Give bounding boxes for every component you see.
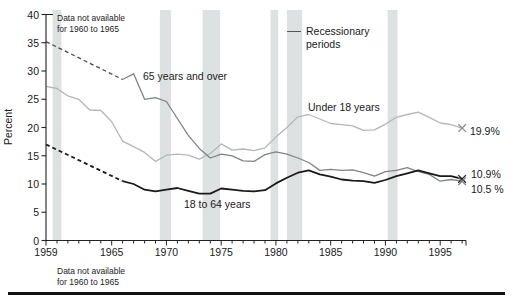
legend-label: Recessionary periods [306,25,370,51]
note-top-line-1: Data not available [57,13,125,24]
y-axis-title: Percent [2,97,16,157]
note-bottom-line-1: Data not available [57,266,125,277]
y-tick-label: 0 [17,235,39,247]
x-tick-label: 1990 [365,246,405,258]
recession-band [388,10,398,241]
series-line [46,86,462,161]
y-tick-label: 5 [17,206,39,218]
end-value-18-to-64: 10.9% [471,168,501,180]
y-tick-label: 40 [17,9,39,21]
poverty-rate-by-age-chart: 0510152025303540195919651970197519801985… [0,0,513,304]
chart-canvas [0,0,513,304]
x-tick-label: 1980 [256,246,296,258]
x-tick-label: 1970 [146,246,186,258]
recession-band [160,10,171,241]
note-bottom-line-2: for 1960 to 1965 [57,277,125,288]
x-tick-label: 1959 [26,246,66,258]
y-tick-label: 30 [17,65,39,77]
recession-band [53,10,62,241]
end-value-under-18: 19.9% [470,125,500,137]
series-label-65-and-over: 65 years and over [143,70,227,82]
y-tick-label: 15 [17,150,39,162]
y-tick-label: 20 [17,122,39,134]
end-value-65-and-over: 10.5 % [471,183,504,195]
note-data-not-available-top: Data not available for 1960 to 1965 [57,13,125,34]
x-tick-label: 1995 [420,246,460,258]
axes [46,15,466,241]
x-end-marker [458,124,466,132]
y-tick-label: 35 [17,37,39,49]
y-tick-label: 25 [17,93,39,105]
series-label-under-18: Under 18 years [308,101,380,113]
note-top-line-2: for 1960 to 1965 [57,24,125,35]
legend-label-line-2: periods [306,38,370,51]
x-tick-label: 1965 [92,246,132,258]
note-data-not-available-bottom: Data not available for 1960 to 1965 [57,266,125,287]
y-tick-label: 10 [17,178,39,190]
bottom-divider-rule [8,292,505,295]
x-tick-label: 1985 [311,246,351,258]
recession-band [271,10,279,241]
legend-label-line-1: Recessionary [306,25,370,38]
legend-line-icon [287,31,301,32]
x-tick-label: 1975 [201,246,241,258]
legend-recessionary-periods: Recessionary periods [287,25,370,51]
series-label-18-to-64: 18 to 64 years [184,198,251,210]
